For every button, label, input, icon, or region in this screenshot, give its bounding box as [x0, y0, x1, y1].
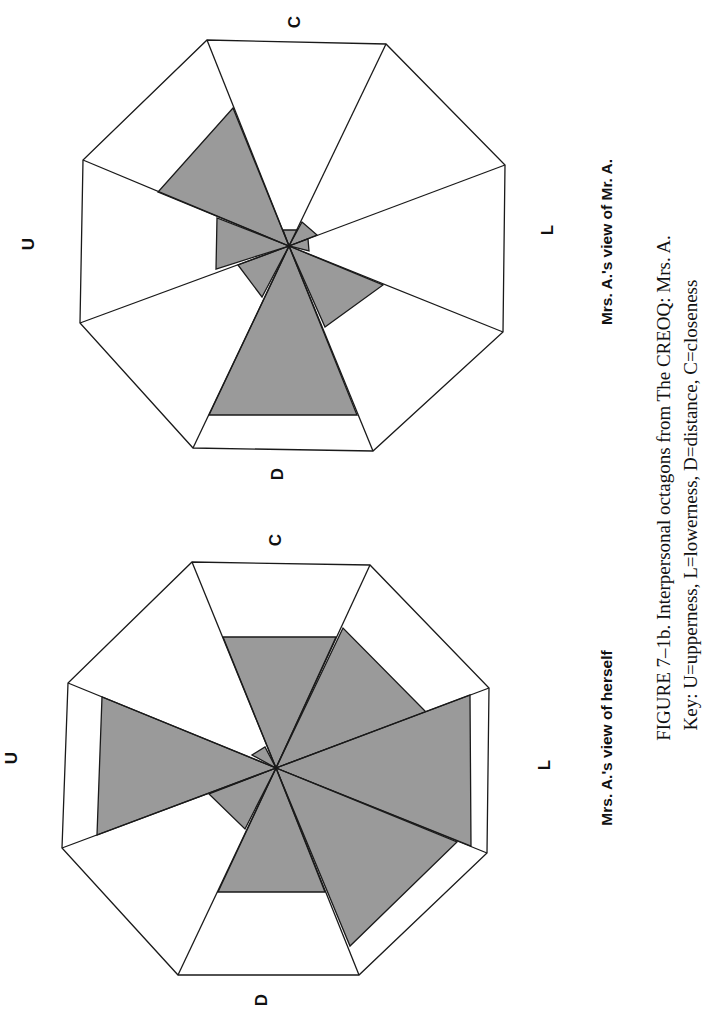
label-l-bottom: L — [535, 760, 554, 770]
label-u-top: U — [19, 238, 38, 250]
subtitle-mrs-a: Mrs. A.'s view of herself — [598, 649, 615, 825]
label-c-bottom: C — [266, 534, 285, 546]
label-d-top: D — [268, 468, 287, 480]
figure: C U L D Mrs. A.'s view of Mr. A. C U L D… — [0, 0, 711, 1011]
subtitle-mr-a: Mrs. A.'s view of Mr. A. — [598, 159, 615, 325]
octagon-mr-a — [80, 40, 505, 451]
label-c-top: C — [285, 16, 304, 28]
label-l-top: L — [538, 225, 557, 235]
label-d-bottom: D — [252, 994, 271, 1006]
figure-key: Key: U=upperness, L=lowerness, D=distanc… — [680, 280, 701, 731]
figure-caption: FIGURE 7–1b. Interpersonal octagons from… — [653, 235, 674, 741]
label-u-bottom: U — [2, 752, 21, 764]
octagon-mrs-a — [62, 562, 489, 975]
